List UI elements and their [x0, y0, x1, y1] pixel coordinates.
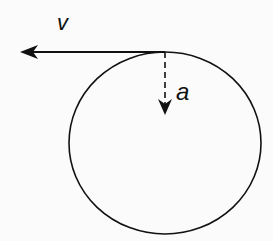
arrowhead-down-icon [158, 99, 172, 115]
acceleration-label: a [176, 78, 189, 105]
acceleration-vector [158, 52, 172, 115]
circular-path [69, 52, 261, 234]
circular-motion-diagram: v a [0, 0, 273, 241]
velocity-label: v [57, 10, 70, 35]
velocity-vector [20, 45, 165, 59]
